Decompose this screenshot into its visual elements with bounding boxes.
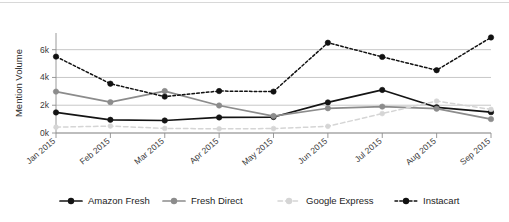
legend-item-google-express[interactable]: Google Express: [278, 195, 374, 206]
data-point-3-6[interactable]: [380, 54, 385, 59]
data-point-2-5[interactable]: [325, 124, 330, 129]
x-tick-label-8: Sep 2015: [458, 136, 493, 167]
data-point-2-6[interactable]: [380, 111, 385, 116]
x-tick-label-4: May 2015: [240, 136, 275, 168]
data-point-1-2[interactable]: [162, 88, 167, 93]
x-tick-labels-group: Jan 2015Feb 2015Mar 2015Apr 2015May 2015…: [24, 133, 492, 168]
legend-label-0: Amazon Fresh: [88, 195, 150, 206]
x-tick-label-5: Jun 2015: [296, 136, 329, 166]
data-point-3-5[interactable]: [325, 40, 330, 45]
data-point-2-3[interactable]: [217, 126, 222, 131]
data-point-0-2[interactable]: [162, 118, 167, 123]
legend-label-2: Google Express: [306, 195, 374, 206]
data-point-1-0[interactable]: [53, 89, 58, 94]
y-tick-label-4k: 4k: [40, 72, 50, 82]
x-tick-label-3: Apr 2015: [188, 136, 221, 166]
data-point-0-0[interactable]: [53, 110, 58, 115]
data-point-2-8[interactable]: [489, 107, 494, 112]
data-point-0-3[interactable]: [216, 115, 221, 120]
data-point-1-5[interactable]: [325, 106, 330, 111]
x-tick-label-6: Jul 2015: [352, 136, 383, 164]
data-point-1-1[interactable]: [108, 99, 113, 104]
data-point-2-0[interactable]: [54, 125, 59, 130]
data-point-3-2[interactable]: [162, 94, 167, 99]
data-point-2-2[interactable]: [162, 126, 167, 131]
data-point-1-8[interactable]: [488, 116, 493, 121]
data-point-1-4[interactable]: [271, 113, 276, 118]
y-axis-label: Mention Volume: [13, 49, 24, 117]
data-point-3-0[interactable]: [53, 54, 58, 59]
x-tick-label-0: Jan 2015: [24, 136, 57, 166]
legend-item-fresh-direct[interactable]: Fresh Direct: [163, 195, 243, 206]
data-point-3-3[interactable]: [216, 88, 221, 93]
data-point-0-6[interactable]: [380, 87, 385, 92]
data-point-1-6[interactable]: [380, 104, 385, 109]
data-point-3-8[interactable]: [488, 35, 493, 40]
chart-canvas: 0k2k4k6kJan 2015Feb 2015Mar 2015Apr 2015…: [0, 0, 509, 222]
legend-item-amazon-fresh[interactable]: Amazon Fresh: [60, 195, 150, 206]
legend-marker-3: [403, 198, 409, 204]
data-point-3-7[interactable]: [434, 68, 439, 73]
data-point-2-1[interactable]: [108, 124, 113, 129]
y-tick-label-6k: 6k: [40, 45, 50, 55]
legend-item-instacart[interactable]: Instacart: [395, 195, 460, 206]
legend-marker-2: [286, 198, 292, 204]
data-point-1-3[interactable]: [216, 103, 221, 108]
legend-label-1: Fresh Direct: [191, 195, 243, 206]
series-instacart[interactable]: [53, 35, 493, 100]
data-point-0-5[interactable]: [325, 100, 330, 105]
x-tick-label-7: Aug 2015: [404, 136, 439, 167]
legend-group: Amazon FreshFresh DirectGoogle ExpressIn…: [60, 195, 460, 206]
mention-volume-line-chart: 0k2k4k6kJan 2015Feb 2015Mar 2015Apr 2015…: [0, 0, 509, 222]
legend-label-3: Instacart: [423, 195, 460, 206]
data-point-3-4[interactable]: [271, 89, 276, 94]
x-tick-label-2: Mar 2015: [132, 136, 166, 167]
series-group: [53, 35, 493, 131]
y-tick-label-0k: 0k: [40, 128, 50, 138]
x-tick-label-1: Feb 2015: [78, 136, 112, 167]
data-point-2-7[interactable]: [434, 99, 439, 104]
legend-marker-0: [68, 198, 74, 204]
data-point-3-1[interactable]: [108, 81, 113, 86]
y-tick-label-2k: 2k: [40, 100, 50, 110]
legend-marker-1: [171, 198, 177, 204]
data-point-0-1[interactable]: [108, 117, 113, 122]
data-point-2-4[interactable]: [271, 126, 276, 131]
series-line-3: [56, 37, 491, 96]
data-point-1-7[interactable]: [434, 106, 439, 111]
